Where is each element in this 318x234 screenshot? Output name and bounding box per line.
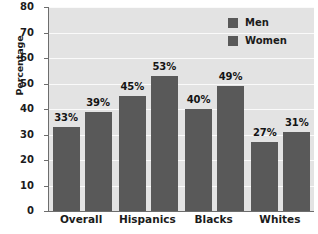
bar (185, 109, 212, 211)
legend-item: Men (228, 14, 308, 32)
bar-value-label: 27% (243, 128, 286, 138)
bar-chart: Percentage 01020304050607080 33%39%45%53… (0, 0, 318, 234)
x-axis-category-label: Overall (48, 214, 114, 225)
x-axis-category-label: Hispanics (114, 214, 180, 225)
y-axis-tick-label: 30 (0, 130, 34, 140)
bar (283, 132, 310, 211)
bar-value-label: 31% (275, 118, 318, 128)
x-axis-category-label: Whites (247, 214, 313, 225)
bar-value-label: 53% (143, 62, 186, 72)
legend-swatch-icon (228, 36, 238, 46)
y-axis-tick-labels: 01020304050607080 (0, 0, 44, 234)
bar (151, 76, 178, 211)
bar-value-label: 49% (209, 72, 252, 82)
legend-item: Women (228, 32, 308, 50)
bar (53, 127, 80, 211)
x-axis-category-label: Blacks (181, 214, 247, 225)
y-axis-tick-label: 40 (0, 104, 34, 114)
legend-swatch-icon (228, 18, 238, 28)
bar (119, 96, 146, 211)
bar-value-label: 39% (77, 98, 120, 108)
bar-value-label: 33% (45, 113, 88, 123)
y-axis-tick-label: 20 (0, 155, 34, 165)
bar-value-label: 40% (177, 95, 220, 105)
y-axis-tick-label: 60 (0, 53, 34, 63)
x-axis-category-labels: OverallHispanicsBlacksWhites (48, 214, 313, 234)
y-axis-tick-label: 0 (0, 206, 34, 216)
y-axis-tick-label: 50 (0, 79, 34, 89)
y-axis-tick-label: 80 (0, 2, 34, 12)
bar (217, 86, 244, 211)
y-axis-tick-label: 10 (0, 181, 34, 191)
y-axis-tick-label: 70 (0, 28, 34, 38)
legend-item-label: Women (245, 36, 287, 46)
bar (85, 112, 112, 211)
bar-value-label: 45% (111, 82, 154, 92)
legend-item-label: Men (245, 18, 269, 28)
chart-legend: MenWomen (228, 14, 308, 50)
bar (251, 142, 278, 211)
